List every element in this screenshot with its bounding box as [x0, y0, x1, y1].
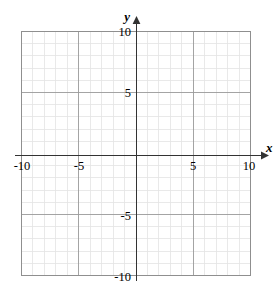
x-tick-label-neg-5: -5 [74, 159, 84, 173]
y-axis-label: y [122, 9, 130, 24]
x-tick-label-5: 5 [190, 159, 196, 173]
x-axis-label: x [265, 140, 273, 155]
coordinate-grid-figure: x y -10 -5 5 10 10 5 -5 -10 [0, 0, 279, 288]
coordinate-plane-svg: x y -10 -5 5 10 10 5 -5 -10 [0, 0, 279, 288]
y-tick-label-5: 5 [125, 86, 131, 100]
y-tick-label-neg-5: -5 [121, 209, 131, 223]
x-tick-label-neg-10: -10 [14, 159, 31, 173]
y-tick-label-10: 10 [119, 25, 132, 39]
y-tick-label-neg-10: -10 [114, 270, 131, 284]
x-tick-label-10: 10 [243, 159, 256, 173]
